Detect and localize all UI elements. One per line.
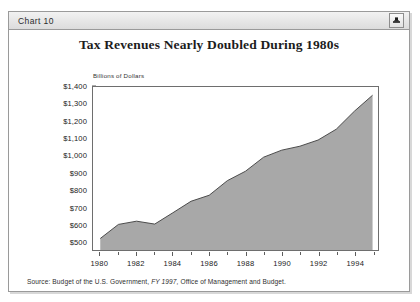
x-axis-tick-label: 1980 (90, 259, 108, 268)
x-axis-tick-label: 1988 (237, 259, 255, 268)
x-axis-tick-mark (172, 252, 173, 256)
x-axis-tick-mark (99, 252, 100, 256)
x-axis-tick-mark (319, 252, 320, 256)
x-axis-tick-mark (264, 252, 265, 255)
y-axis-tick-label: $800 (37, 186, 87, 195)
y-axis-tick-label: $1,100 (37, 134, 87, 143)
chart-window: Chart 10 Tax Revenues Nearly Doubled Dur… (8, 11, 410, 292)
y-axis-tick-label: $1,400 (37, 82, 87, 91)
x-axis-tick-mark (355, 252, 356, 256)
y-axis-tick-label: $1,000 (37, 151, 87, 160)
x-axis-tick-mark (118, 252, 119, 255)
y-axis-tick-label: $700 (37, 203, 87, 212)
x-axis-tick-mark (282, 252, 283, 256)
window-title: Chart 10 (9, 16, 54, 26)
x-axis-tick-mark (374, 252, 375, 255)
x-axis-tick-mark (154, 252, 155, 255)
x-axis-tick-label: 1990 (273, 259, 291, 268)
y-axis-tick-label: $1,300 (37, 99, 87, 108)
area-fill-path (100, 95, 372, 250)
axis-units-label: Billions of Dollars (93, 72, 144, 79)
x-axis-tick-label: 1986 (200, 259, 218, 268)
y-axis-tick-label: $500 (37, 238, 87, 247)
x-axis-tick-label: 1982 (127, 259, 145, 268)
x-axis-tick-label: 1984 (164, 259, 182, 268)
source-prefix: Source: Budget of the U.S. Government, (27, 278, 149, 285)
x-axis-tick-mark (300, 252, 301, 255)
x-axis-tick-mark (191, 252, 192, 255)
x-axis-tick-label: 1992 (310, 259, 328, 268)
source-suffix: Office of Management and Budget. (181, 278, 286, 285)
chart-body: Tax Revenues Nearly Doubled During 1980s… (9, 30, 409, 291)
window-widget-icon[interactable] (389, 13, 404, 28)
source-note: Source: Budget of the U.S. Government, F… (27, 278, 286, 285)
plot-area (92, 86, 379, 251)
x-axis-tick-label: 1994 (346, 259, 364, 268)
y-axis-labels: $1,400$1,300$1,200$1,100$1,000$900$800$7… (35, 86, 87, 251)
x-axis-tick-mark (227, 252, 228, 255)
y-axis-tick-label: $600 (37, 220, 87, 229)
area-series-svg (93, 87, 378, 250)
x-axis-tick-mark (246, 252, 247, 256)
source-italic: FY 1997, (151, 278, 178, 285)
y-axis-tick-label: $1,200 (37, 116, 87, 125)
chart-title: Tax Revenues Nearly Doubled During 1980s (9, 37, 409, 53)
window-titlebar: Chart 10 (9, 12, 409, 30)
y-axis-tick-label: $900 (37, 168, 87, 177)
x-axis-labels: 19801982198419861988199019921994 (92, 252, 379, 270)
x-axis-tick-mark (337, 252, 338, 255)
x-axis-tick-mark (209, 252, 210, 256)
x-axis-tick-mark (136, 252, 137, 256)
